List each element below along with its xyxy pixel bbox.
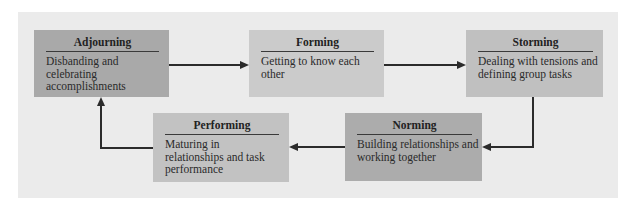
stage-performing: Performing Maturing in relationships and… xyxy=(153,113,289,182)
connector-storming-norming-horizontal xyxy=(490,146,534,148)
stage-description: Maturing in relationships and task perfo… xyxy=(165,138,275,176)
stage-title: Performing xyxy=(165,119,279,135)
stage-title: Storming xyxy=(478,36,593,52)
arrowhead-right-icon xyxy=(457,61,466,69)
connector-adjourning-forming xyxy=(169,64,241,66)
connector-forming-storming xyxy=(384,64,458,66)
stage-title: Forming xyxy=(261,36,374,52)
stage-description: Disbanding and celebrating accomplishmen… xyxy=(46,55,146,93)
stage-description: Getting to know each other xyxy=(261,55,366,80)
arrowhead-right-icon xyxy=(240,61,249,69)
arrowhead-left-icon xyxy=(289,143,298,151)
stage-description: Building relationships and working toget… xyxy=(357,138,479,163)
stage-norming: Norming Building relationships and worki… xyxy=(345,113,482,181)
arrowhead-left-icon xyxy=(482,143,491,151)
stage-title: Adjourning xyxy=(46,36,159,52)
arrowhead-up-icon xyxy=(97,97,105,106)
connector-norming-performing xyxy=(297,146,345,148)
connector-performing-adjourning-vertical xyxy=(100,105,102,149)
connector-performing-adjourning-horizontal xyxy=(100,147,153,149)
connector-storming-norming-vertical xyxy=(532,97,534,148)
stage-title: Norming xyxy=(357,119,472,135)
stage-forming: Forming Getting to know each other xyxy=(249,30,384,97)
stage-adjourning: Adjourning Disbanding and celebrating ac… xyxy=(34,30,169,97)
stage-storming: Storming Dealing with tensions and defin… xyxy=(466,30,603,97)
stage-description: Dealing with tensions and defining group… xyxy=(478,55,600,80)
